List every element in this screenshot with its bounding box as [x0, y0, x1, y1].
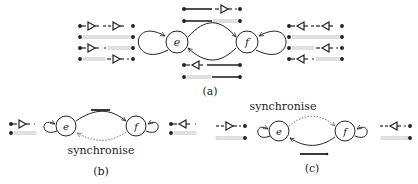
- node-e-label: e: [174, 36, 181, 49]
- edge-f-e: [188, 48, 236, 60]
- panel-b: e f synchronise (b): [10, 110, 196, 178]
- edge-e-f-synchronise: [289, 116, 335, 126]
- edge-label-synchronise: synchronise: [250, 100, 317, 113]
- edge-f-e-synchronise: [77, 132, 126, 140]
- left-glyph-rows: [10, 120, 36, 135]
- left-glyph-rows: [216, 122, 246, 140]
- edge-e-f: [188, 23, 236, 37]
- self-loop-e: [44, 122, 57, 132]
- graph-b: [44, 111, 158, 140]
- self-loop-f: [355, 127, 367, 137]
- bottom-glyph-rows: [183, 61, 242, 79]
- panel-c: synchronise: [216, 100, 411, 175]
- right-glyph-rows: [170, 120, 196, 135]
- edge-e-f: [76, 111, 126, 121]
- node-e-label: e: [276, 126, 282, 137]
- right-glyph-rows: [380, 122, 411, 140]
- edge-f-e: [290, 137, 335, 145]
- graph-c: [258, 116, 368, 145]
- self-loop-e: [258, 127, 270, 137]
- self-loop-f: [146, 122, 158, 132]
- caption-a: (a): [202, 85, 217, 98]
- diagram-canvas: e f (a): [0, 0, 418, 184]
- top-glyph-rows: [183, 5, 242, 23]
- self-loop-f: [256, 31, 286, 54]
- caption-b: (b): [93, 165, 109, 178]
- panel-a: e f (a): [79, 5, 344, 98]
- node-e-label: e: [63, 121, 69, 132]
- bottom-glyph-row: [300, 153, 328, 156]
- self-loop-e: [138, 31, 168, 54]
- left-glyph-rows: [79, 22, 135, 63]
- edge-label-synchronise: synchronise: [68, 144, 135, 157]
- caption-c: (c): [305, 162, 320, 175]
- right-glyph-rows: [288, 22, 344, 63]
- graph-a: [138, 23, 286, 60]
